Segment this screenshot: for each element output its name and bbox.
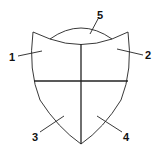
- shield-diagram: 1 2 3 4 5: [0, 0, 160, 149]
- label-3: 3: [32, 131, 38, 143]
- shield-top-edge: [33, 32, 128, 45]
- shield-right-edge: [81, 32, 129, 144]
- leader-line-3: [40, 116, 64, 132]
- label-5: 5: [97, 9, 103, 21]
- top-lens-arc: [50, 28, 112, 39]
- leader-line-2: [117, 49, 143, 55]
- label-2: 2: [145, 49, 151, 61]
- leader-line-1: [18, 51, 42, 56]
- label-1: 1: [9, 51, 15, 63]
- leader-line-4: [97, 116, 122, 132]
- shield-left-edge: [32, 32, 81, 144]
- label-4: 4: [123, 131, 130, 143]
